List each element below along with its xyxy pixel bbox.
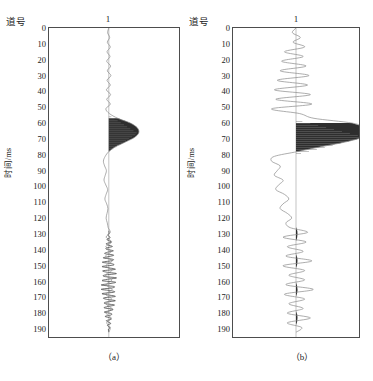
y-tick-label: 120 [217, 213, 230, 223]
y-tick-label: 100 [33, 181, 46, 191]
y-axis-title-a: 时间/ms [2, 128, 14, 198]
y-tick-label: 0 [226, 23, 230, 33]
y-tick-label: 60 [222, 118, 231, 128]
y-tick-label: 20 [222, 55, 231, 65]
y-tick-label: 180 [217, 308, 230, 318]
y-tick-label: 80 [38, 150, 47, 160]
y-tick-label: 110 [34, 197, 46, 207]
y-tick-label: 150 [33, 261, 46, 271]
y-tick-label: 190 [217, 324, 230, 334]
y-tick-label: 150 [217, 261, 230, 271]
wiggle-curve [271, 28, 359, 332]
caption-a: （a） [84, 350, 144, 363]
panel-b: 道号 1 时间/ms 01020304050607080901001101201… [183, 0, 373, 381]
caption-b: （b） [272, 350, 332, 363]
y-tick-label: 10 [38, 39, 47, 49]
wiggle-trace-b [233, 28, 359, 337]
y-tick-label: 0 [42, 23, 46, 33]
y-tick-label: 130 [33, 229, 46, 239]
variable-area-fill-secondary-lobe [296, 254, 298, 268]
y-tick-label: 90 [222, 166, 231, 176]
y-tick-label: 50 [222, 102, 231, 112]
trace-number-label-a: 1 [101, 14, 115, 24]
variable-area-fill-secondary-lobe [296, 311, 298, 325]
y-tick-label: 20 [38, 55, 47, 65]
y-tick-label: 50 [38, 102, 47, 112]
y-tick-label: 120 [33, 213, 46, 223]
y-tick-label: 160 [33, 277, 46, 287]
y-tick-label: 180 [33, 308, 46, 318]
y-tick-label: 130 [217, 229, 230, 239]
y-tick-label: 110 [218, 197, 230, 207]
wiggle-trace-a [49, 28, 179, 337]
y-tick-label: 160 [217, 277, 230, 287]
y-tick-label: 140 [217, 245, 230, 255]
y-tick-label: 170 [217, 292, 230, 302]
y-tick-label: 190 [33, 324, 46, 334]
y-tick-label: 40 [38, 86, 47, 96]
y-tick-label: 30 [222, 71, 231, 81]
y-tick-label: 10 [222, 39, 231, 49]
y-tick-labels-a: 0102030405060708090100110120130140150160… [22, 0, 46, 381]
y-tick-label: 80 [222, 150, 231, 160]
y-tick-labels-b: 0102030405060708090100110120130140150160… [206, 0, 230, 381]
y-tick-label: 100 [217, 181, 230, 191]
y-axis-title-b: 时间/ms [185, 128, 197, 198]
trace-number-label-b: 1 [289, 14, 303, 24]
seismic-trace-figure: 道号 1 时间/ms 01020304050607080901001101201… [0, 0, 373, 381]
y-tick-label: 90 [38, 166, 47, 176]
y-tick-label: 70 [222, 134, 231, 144]
y-tick-label: 30 [38, 71, 47, 81]
y-tick-label: 140 [33, 245, 46, 255]
panel-a: 道号 1 时间/ms 01020304050607080901001101201… [0, 0, 190, 381]
y-tick-label: 170 [33, 292, 46, 302]
y-tick-label: 40 [222, 86, 231, 96]
y-tick-label: 70 [38, 134, 47, 144]
variable-area-fill-secondary-lobe [296, 282, 298, 296]
y-tick-label: 60 [38, 118, 47, 128]
